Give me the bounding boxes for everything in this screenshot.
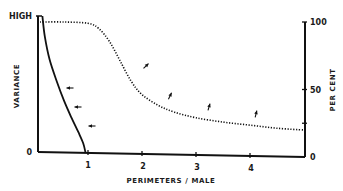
left-axis-title: VARIANCE bbox=[13, 64, 21, 108]
arrow-icon bbox=[144, 64, 149, 69]
arrows bbox=[67, 64, 258, 128]
left-tick-high: HIGH bbox=[9, 12, 32, 21]
x-tick-2: 2 bbox=[140, 162, 146, 171]
right-tick-0: 0 bbox=[310, 153, 316, 162]
chart: HIGH 0 VARIANCE PER CENT PERIMETERS / MA… bbox=[0, 0, 343, 191]
x-tick-1: 1 bbox=[85, 161, 91, 170]
x-tick-4: 4 bbox=[248, 164, 254, 173]
arrow-icon bbox=[254, 111, 257, 118]
series-line-variance bbox=[42, 16, 85, 153]
right-axis-title: PER CENT bbox=[329, 68, 337, 111]
arrow-icon bbox=[75, 105, 82, 109]
arrow-icon bbox=[89, 124, 96, 128]
left-tick-zero: 0 bbox=[26, 148, 32, 157]
ticks bbox=[88, 22, 307, 158]
series bbox=[40, 16, 304, 153]
axes bbox=[36, 16, 305, 157]
right-tick-100: 100 bbox=[310, 18, 327, 27]
x-axis-title: PERIMETERS / MALE bbox=[127, 177, 216, 185]
right-tick-50: 50 bbox=[310, 86, 322, 95]
arrow-icon bbox=[207, 104, 210, 111]
x-tick-3: 3 bbox=[194, 163, 200, 172]
x-axis bbox=[38, 152, 305, 157]
arrow-icon bbox=[168, 93, 171, 99]
arrow-icon bbox=[67, 86, 74, 90]
series-line-per-cent bbox=[40, 22, 304, 130]
labels: HIGH 0 VARIANCE PER CENT PERIMETERS / MA… bbox=[9, 12, 337, 185]
